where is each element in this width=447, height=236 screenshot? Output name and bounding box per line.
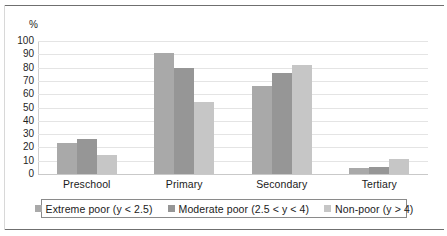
bar-group	[136, 41, 234, 174]
legend-swatch-icon	[35, 205, 42, 212]
y-tick-label: 30	[23, 129, 34, 139]
bar-group	[233, 41, 331, 174]
bar	[194, 102, 214, 174]
chart-legend: Extreme poor (y < 2.5)Moderate poor (2.5…	[41, 199, 407, 218]
legend-label: Non-poor (y > 4)	[335, 203, 413, 215]
figure-top-rule	[4, 5, 444, 6]
gridline	[38, 174, 428, 175]
y-tick-label: 80	[23, 63, 34, 73]
bar-group	[38, 41, 136, 174]
bar	[349, 168, 369, 174]
bar	[252, 86, 272, 174]
legend-swatch-icon	[324, 205, 331, 212]
legend-label: Moderate poor (2.5 < y < 4)	[179, 203, 310, 215]
legend-label: Extreme poor (y < 2.5)	[46, 203, 153, 215]
figure-bottom-rule	[4, 229, 444, 230]
x-category-label: Secondary	[256, 178, 307, 190]
bar	[174, 68, 194, 174]
bar	[77, 139, 97, 174]
y-tick-label: 90	[23, 49, 34, 59]
x-category-label: Tertiary	[362, 178, 397, 190]
y-tick-label: 70	[23, 76, 34, 86]
legend-item[interactable]: Extreme poor (y < 2.5)	[35, 203, 153, 215]
bar	[292, 65, 312, 174]
figure-left-edge	[4, 5, 5, 230]
y-tick-label: 20	[23, 142, 34, 152]
bar	[97, 155, 117, 174]
plot-area: 0102030405060708090100	[38, 41, 428, 174]
legend-swatch-icon	[168, 205, 175, 212]
x-category-label: Preschool	[63, 178, 111, 190]
bar	[154, 53, 174, 174]
y-tick-label: 0	[28, 169, 34, 179]
y-tick-label: 10	[23, 156, 34, 166]
bar	[272, 73, 292, 174]
y-tick-label: 40	[23, 116, 34, 126]
bar	[369, 167, 389, 174]
bar-group	[331, 41, 429, 174]
y-tick-label: 50	[23, 103, 34, 113]
bar	[57, 143, 77, 174]
y-tick-label: 60	[23, 89, 34, 99]
x-category-label: Primary	[166, 178, 203, 190]
legend-item[interactable]: Non-poor (y > 4)	[324, 203, 413, 215]
y-tick-label: 100	[17, 36, 34, 46]
y-axis-unit-label: %	[29, 19, 38, 30]
bar	[389, 159, 409, 174]
chart-figure: % 0102030405060708090100 PreschoolPrimar…	[0, 0, 447, 236]
legend-item[interactable]: Moderate poor (2.5 < y < 4)	[168, 203, 310, 215]
